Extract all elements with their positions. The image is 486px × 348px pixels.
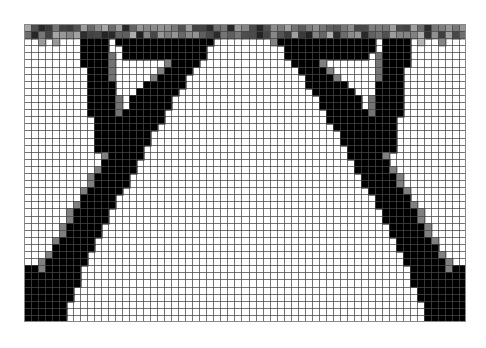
density-field-canvas <box>24 24 466 322</box>
topology-plot-area <box>24 24 466 322</box>
figure-canvas <box>0 0 486 348</box>
